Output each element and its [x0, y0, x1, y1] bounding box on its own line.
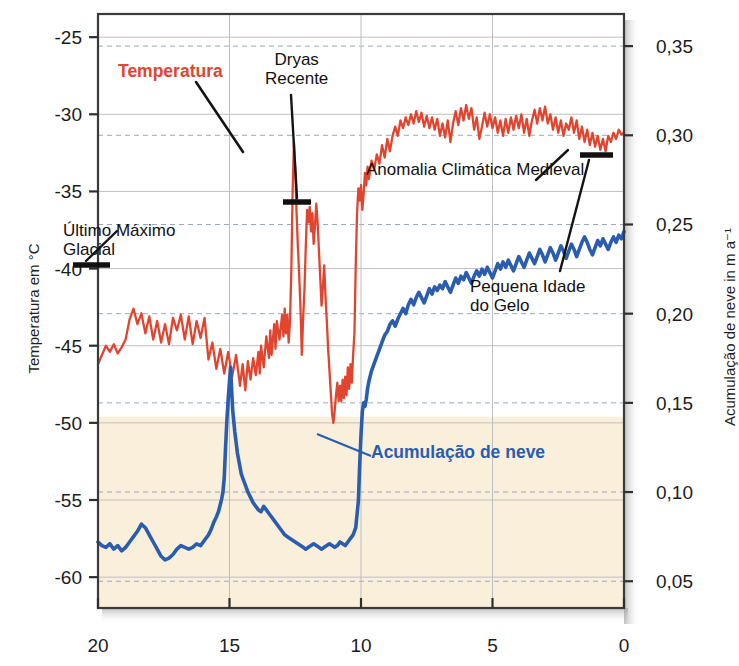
- ytick-label-left-6: -55: [55, 490, 82, 511]
- annotation-acumulacao-de-neve: Acumulação de neve: [371, 443, 545, 463]
- annotation-dryas-line2: Recente: [265, 69, 328, 88]
- ytick-label-left-0: -25: [55, 27, 82, 48]
- ytick-label-right-1: 0,30: [656, 125, 693, 146]
- annotation-anomalia-climatica-medieval: Anomalia Climática Medieval: [366, 160, 584, 179]
- ytick-label-left-4: -45: [55, 336, 82, 357]
- annotation-lgm-line2: Glacial: [63, 240, 175, 259]
- annotation-temperatura: Temperatura: [118, 62, 223, 82]
- annotation-dryas-line1: Dryas: [265, 50, 328, 69]
- annotation-lgm-line1: Último Máximo: [63, 221, 175, 240]
- plot-shadow-bottom: [102, 608, 628, 624]
- ytick-label-right-5: 0,10: [656, 482, 693, 503]
- ytick-label-left-3: -40: [55, 259, 82, 280]
- xtick-label-3: 5: [487, 635, 498, 656]
- annotation-lia-line1: Pequena Idade: [470, 277, 585, 296]
- annotation-pequena-idade-do-gelo: Pequena Idade do Gelo: [470, 277, 585, 315]
- xtick-label-0: 20: [87, 635, 108, 656]
- annotation-dryas-recente: Dryas Recente: [265, 50, 328, 88]
- annotation-ultimo-maximo-glacial: Último Máximo Glacial: [63, 221, 175, 259]
- ytick-label-left-5: -50: [55, 413, 82, 434]
- ytick-label-right-3: 0,20: [656, 304, 693, 325]
- xtick-label-4: 0: [619, 635, 630, 656]
- ytick-label-right-0: 0,35: [656, 36, 693, 57]
- xtick-label-1: 15: [219, 635, 240, 656]
- ytick-label-right-2: 0,25: [656, 214, 693, 235]
- ytick-label-left-1: -30: [55, 104, 82, 125]
- plot-shadow-right: [624, 20, 640, 624]
- ytick-label-right-4: 0,15: [656, 393, 693, 414]
- annotation-lia-line2: do Gelo: [470, 296, 585, 315]
- ytick-label-right-6: 0,05: [656, 571, 693, 592]
- xtick-label-2: 10: [350, 635, 371, 656]
- ytick-label-left-7: -60: [55, 567, 82, 588]
- ytick-label-left-2: -35: [55, 181, 82, 202]
